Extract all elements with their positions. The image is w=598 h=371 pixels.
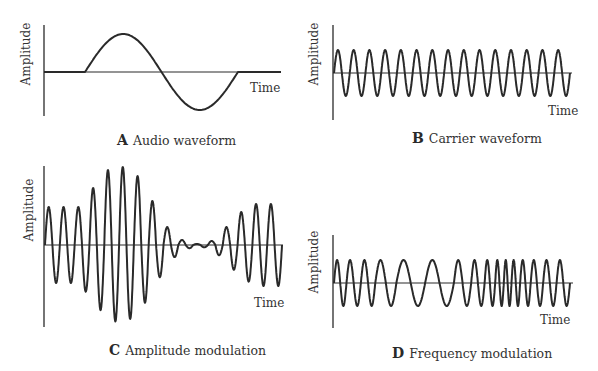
panel-a-caption-text: Audio waveform	[133, 133, 236, 148]
panel-a-y-label: Amplitude	[19, 23, 33, 87]
panel-d-frequency-modulation: Amplitude Time	[307, 231, 573, 328]
panel-a-caption: AAudio waveform	[117, 132, 236, 148]
panel-d-y-label: Amplitude	[307, 231, 321, 295]
panel-a-audio-wave	[44, 34, 281, 110]
panel-d-letter: D	[392, 345, 404, 361]
panel-c-letter: C	[109, 342, 120, 358]
panel-d-caption: DFrequency modulation	[392, 345, 552, 361]
panel-b-y-label: Amplitude	[307, 23, 321, 87]
panel-d-x-label: Time	[540, 313, 570, 327]
panel-b-caption-text: Carrier waveform	[429, 131, 542, 146]
panel-c-caption-text: Amplitude modulation	[125, 343, 266, 358]
panel-b-carrier-waveform: Amplitude Time	[307, 23, 578, 120]
panel-c-caption: CAmplitude modulation	[109, 342, 266, 358]
modulation-diagram: Amplitude Time Amplitude Time Amplitude …	[0, 0, 598, 371]
panel-b-letter: B	[412, 130, 424, 146]
panel-b-caption: BCarrier waveform	[412, 130, 542, 146]
panel-c-x-label: Time	[254, 296, 284, 310]
panel-c-y-label: Amplitude	[22, 179, 36, 243]
panel-c-am-wave	[45, 167, 282, 321]
panel-a-audio-waveform: Amplitude Time	[19, 23, 281, 116]
panel-d-caption-text: Frequency modulation	[409, 346, 552, 361]
panel-a-letter: A	[117, 132, 128, 148]
panel-c-amplitude-modulation: Amplitude Time	[22, 166, 284, 327]
panel-b-x-label: Time	[548, 104, 578, 118]
panel-a-x-label: Time	[250, 81, 280, 95]
